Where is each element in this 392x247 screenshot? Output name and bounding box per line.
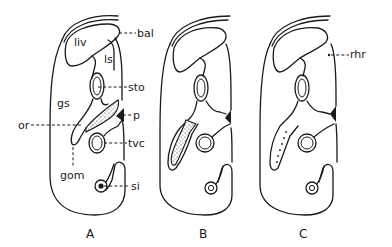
label-p: p (133, 109, 140, 122)
liver-outline-b (170, 16, 230, 46)
panel-a: liv ls gs bal sto p or tvc gom si A (18, 16, 154, 241)
label-ls: ls (104, 53, 113, 66)
liver-outline-a (62, 16, 118, 42)
label-rhr: rhr (350, 48, 366, 61)
arrowhead-b (225, 110, 231, 124)
label-sto: sto (128, 81, 145, 94)
liver-outline-c (270, 16, 330, 46)
pancreas-b (171, 120, 196, 165)
liver-c (273, 28, 327, 72)
omental-recess-c (270, 101, 298, 170)
label-si: si (131, 180, 140, 193)
embryo-cross-section-diagram: liv ls gs bal sto p or tvc gom si A (0, 0, 392, 247)
arrowhead-c (330, 106, 336, 122)
label-or: or (18, 119, 30, 132)
panel-label-b: B (199, 227, 207, 241)
panel-c: rhr C (260, 16, 366, 241)
label-liv: liv (74, 36, 87, 49)
panel-label-c: C (299, 227, 307, 241)
panel-b: B (160, 16, 232, 241)
label-gom: gom (60, 169, 84, 182)
body-outline-c (260, 44, 333, 215)
label-gs: gs (57, 97, 70, 110)
panel-label-a: A (86, 227, 95, 241)
label-tvc: tvc (128, 137, 145, 150)
label-bal: bal (137, 27, 154, 40)
intestine-b (205, 182, 217, 194)
body-wall-right-a (115, 38, 122, 100)
intestine-c (306, 182, 318, 194)
